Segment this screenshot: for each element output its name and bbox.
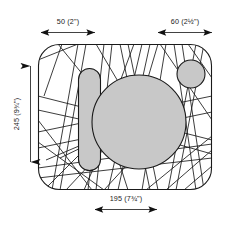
dimension-left: 245 (9¾")	[12, 66, 31, 162]
small-circle-shape	[177, 60, 205, 88]
dimension-label-bottom: 195 (7¾")	[110, 194, 143, 203]
dimension-bottom: 195 (7¾")	[95, 194, 157, 210]
dimension-label-top-left: 50 (2")	[57, 17, 79, 26]
technical-drawing-svg: 50 (2") 60 (2½") 195 (7¾") 245 (9¾")	[0, 0, 225, 231]
dimension-top-left: 50 (2")	[41, 17, 95, 33]
drawing-canvas: 50 (2") 60 (2½") 195 (7¾") 245 (9¾")	[0, 0, 225, 231]
dimension-label-top-right: 60 (2½")	[171, 17, 200, 26]
dimension-top-right: 60 (2½")	[158, 17, 212, 33]
large-circle-shape	[92, 75, 186, 169]
dimension-label-left: 245 (9¾")	[12, 98, 21, 131]
